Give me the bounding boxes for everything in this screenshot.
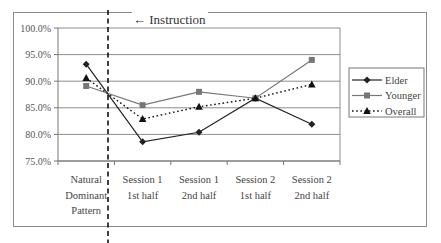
- y-tick-label: 100.0%: [20, 23, 51, 34]
- legend: ElderYoungerOverall: [349, 68, 424, 117]
- legend-entry-younger: Younger: [385, 90, 421, 101]
- x-category-label: Session 21st half: [235, 174, 275, 201]
- triangle-marker: [195, 103, 203, 110]
- x-category-label: Session 12nd half: [179, 174, 219, 201]
- instruction-annotation: ← Instruction: [133, 12, 206, 27]
- square-marker: [309, 57, 315, 63]
- diamond-marker: [308, 121, 315, 128]
- x-category-label: Session 22nd half: [292, 174, 332, 201]
- y-tick-label: 90.0%: [25, 76, 51, 87]
- y-tick-label: 75.0%: [25, 156, 51, 167]
- square-marker: [83, 83, 89, 89]
- triangle-marker: [82, 74, 90, 81]
- x-category-label: NaturalDominantPattern: [65, 174, 107, 216]
- x-category-label: Session 11st half: [123, 174, 163, 201]
- line-chart: 75.0%80.0%85.0%90.0%95.0%100.0%NaturalDo…: [0, 0, 441, 243]
- square-marker: [140, 102, 146, 108]
- y-tick-label: 95.0%: [25, 49, 51, 60]
- y-tick-label: 85.0%: [25, 102, 51, 113]
- square-marker: [196, 89, 202, 95]
- legend-entry-overall: Overall: [385, 106, 417, 117]
- square-marker: [364, 93, 370, 99]
- y-tick-label: 80.0%: [25, 129, 51, 140]
- legend-entry-elder: Elder: [385, 75, 408, 86]
